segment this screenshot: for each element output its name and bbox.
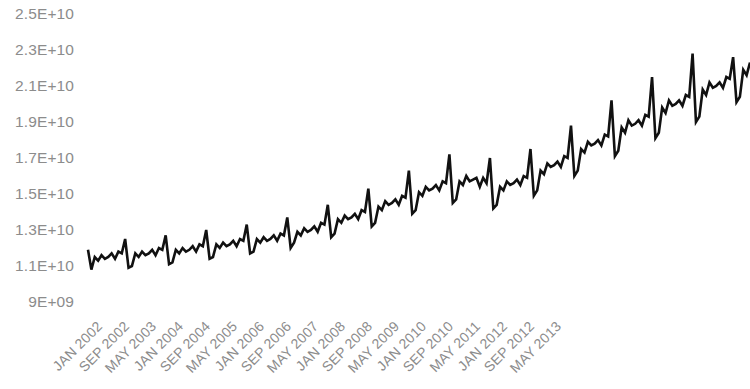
data-line-series-1: [88, 54, 750, 270]
plot-area: [0, 0, 750, 389]
line-chart: 2.5E+102.3E+102.1E+101.9E+101.7E+101.5E+…: [0, 0, 750, 389]
